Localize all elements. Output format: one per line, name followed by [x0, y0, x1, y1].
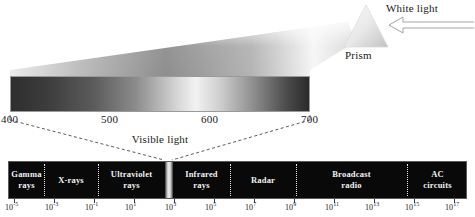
- em-band-label: Broadcastradio: [332, 169, 370, 190]
- em-ticklabel-3: 101: [125, 203, 136, 212]
- em-band-divider-1: [98, 164, 99, 196]
- em-ticklabel-8: 1011: [325, 203, 339, 212]
- em-ticklabel-0: 10-5: [5, 203, 18, 212]
- em-spectrum-bar: GammaraysX-raysUltravioletraysInfraredra…: [8, 161, 467, 199]
- em-band-divider-5: [407, 164, 408, 196]
- em-band-ac-circuits[interactable]: ACcircuits: [407, 162, 468, 198]
- em-band-radar[interactable]: Radar: [230, 162, 296, 198]
- em-ticklabel-9: 1013: [365, 203, 379, 212]
- em-band-gamma-rays[interactable]: Gammarays: [9, 162, 44, 198]
- em-band-label: Radar: [251, 175, 275, 186]
- em-band-label: Infraredrays: [185, 169, 218, 190]
- em-ticklabel-11: 1017: [445, 203, 459, 212]
- prism-shape: [343, 4, 389, 48]
- em-frequency-axis: 10-510-310-11011031051071091011101310151…: [0, 199, 475, 217]
- white-light-label: White light: [386, 2, 438, 14]
- em-band-divider-3: [230, 164, 231, 196]
- wavelength-tick-700: 700: [301, 113, 318, 125]
- em-band-ultraviolet-rays[interactable]: Ultravioletrays: [98, 162, 165, 198]
- em-ticklabel-2: 10-1: [85, 203, 98, 212]
- em-band-label: ACcircuits: [423, 169, 451, 190]
- em-ticklabel-4: 103: [165, 203, 176, 212]
- em-band-divider-0: [44, 164, 45, 196]
- em-band-visible-light: [165, 162, 173, 198]
- em-ticklabel-10: 1015: [405, 203, 419, 212]
- em-band-label: X-rays: [58, 175, 84, 186]
- em-ticklabel-6: 107: [245, 203, 256, 212]
- em-spectrum-figure: Prism White light 400500600700 Visible l…: [0, 0, 475, 217]
- em-band-label: Gammarays: [11, 169, 41, 190]
- wavelength-axis: 400500600700: [0, 113, 475, 127]
- em-band-x-rays[interactable]: X-rays: [44, 162, 98, 198]
- em-ticklabel-5: 105: [205, 203, 216, 212]
- em-ticklabel-7: 109: [285, 203, 296, 212]
- visible-light-caption: Visible light: [0, 133, 320, 145]
- wavelength-tick-400: 400: [1, 113, 18, 125]
- em-band-divider-4: [296, 164, 297, 196]
- visible-spectrum-band: [10, 76, 310, 112]
- prism-label: Prism: [345, 49, 372, 61]
- wavelength-tick-500: 500: [101, 113, 118, 125]
- em-band-label: Ultravioletrays: [111, 169, 152, 190]
- wavelength-tick-600: 600: [201, 113, 218, 125]
- em-ticklabel-1: 10-3: [45, 203, 58, 212]
- em-band-broadcast-radio[interactable]: Broadcastradio: [296, 162, 407, 198]
- em-band-infrared-rays[interactable]: Infraredrays: [173, 162, 230, 198]
